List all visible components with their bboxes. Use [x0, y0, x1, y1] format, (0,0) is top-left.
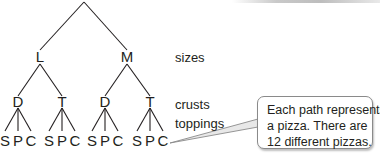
topping-node-p: P	[57, 132, 67, 149]
topping-node-s: S	[132, 132, 142, 149]
callout-line-3: 12 different pizzas.	[267, 134, 368, 150]
callout-line-2: a pizza. There are	[267, 118, 368, 134]
callout-box: Each path represents a pizza. There are …	[257, 96, 373, 149]
size-node-m: M	[121, 48, 134, 65]
topping-node-p: P	[100, 132, 110, 149]
level-label-toppings: toppings	[175, 116, 224, 131]
topping-node-s: S	[0, 132, 10, 149]
topping-node-c: C	[158, 132, 169, 149]
topping-node-p: P	[145, 132, 155, 149]
size-node-l: L	[36, 48, 44, 65]
topping-node-c: C	[113, 132, 124, 149]
crust-node-t: T	[57, 93, 66, 110]
topping-node-c: C	[70, 132, 81, 149]
topping-node-c: C	[26, 132, 37, 149]
topping-node-s: S	[44, 132, 54, 149]
topping-node-s: S	[87, 132, 97, 149]
level-label-crusts: crusts	[175, 97, 210, 112]
crust-node-d: D	[100, 93, 111, 110]
crust-node-t: T	[145, 93, 154, 110]
topping-node-p: P	[13, 132, 23, 149]
tree-diagram: L M D T D T S P C S P C S P C S P C size…	[0, 0, 380, 156]
crust-node-d: D	[13, 93, 24, 110]
callout-line-1: Each path represents	[267, 102, 368, 118]
level-label-sizes: sizes	[175, 50, 205, 65]
